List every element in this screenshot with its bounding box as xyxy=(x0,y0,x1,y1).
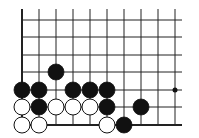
black-stone xyxy=(14,82,30,98)
star-point-icon xyxy=(173,88,178,93)
black-stone xyxy=(99,99,115,115)
black-stone xyxy=(65,82,81,98)
white-stone xyxy=(48,99,64,115)
white-stone xyxy=(99,117,115,133)
star-points xyxy=(173,88,178,93)
black-stone xyxy=(31,82,47,98)
black-stone xyxy=(48,64,64,80)
white-stone xyxy=(82,99,98,115)
black-stone xyxy=(133,99,149,115)
stones xyxy=(14,64,149,133)
black-stone xyxy=(82,82,98,98)
black-stone xyxy=(99,82,115,98)
white-stone xyxy=(14,117,30,133)
black-stone xyxy=(31,99,47,115)
white-stone xyxy=(14,99,30,115)
white-stone xyxy=(65,99,81,115)
black-stone xyxy=(116,117,132,133)
white-stone xyxy=(31,117,47,133)
go-board xyxy=(0,0,199,138)
